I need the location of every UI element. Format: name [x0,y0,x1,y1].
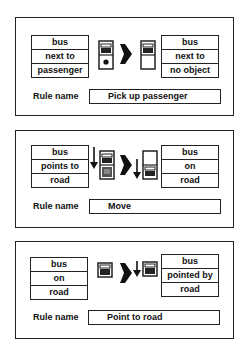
condition-relation[interactable]: points to [32,160,88,174]
rule-panel-point-to-road: bus on road bus pointed by road Rule nam… [15,241,234,339]
before-condition-table: bus points to road [31,145,89,188]
condition-relation[interactable]: on [31,272,87,286]
result-relation[interactable]: on [162,160,218,174]
after-result-table: bus pointed by road [161,254,219,297]
rule-name-field[interactable]: Pick up passenger [89,89,221,104]
after-result-table: bus on road [161,145,219,188]
rule-name-field[interactable]: Point to road [88,310,220,325]
rule-name-label: Rule name [33,312,79,322]
down-pointer-vehicle-on-road-icon [90,147,116,181]
rule-name-label: Rule name [33,201,79,211]
right-arrow-icon [120,151,132,179]
result-object[interactable]: road [162,283,218,296]
rule-name-label: Rule name [33,91,79,101]
before-condition-table: bus next to passenger [31,35,89,78]
after-result-table: bus next to no object [161,35,219,78]
condition-object[interactable]: passenger [32,64,88,77]
before-condition-table: bus on road [30,257,88,300]
condition-object[interactable]: road [32,174,88,187]
result-subject[interactable]: bus [162,146,218,160]
result-relation[interactable]: pointed by [162,269,218,283]
condition-subject[interactable]: bus [31,258,87,272]
rule-name-field[interactable]: Move [89,199,221,214]
down-pointer-vehicle-moved-icon [133,147,159,181]
rule-panel-move: bus points to road bus on road Rule name… [15,130,234,228]
right-arrow-icon [120,40,132,68]
right-arrow-icon [120,259,132,287]
road-tile-icon [97,262,113,278]
condition-subject[interactable]: bus [32,146,88,160]
result-subject[interactable]: bus [162,36,218,50]
vehicle-empty-icon [140,40,156,70]
condition-relation[interactable]: next to [32,50,88,64]
rule-panel-pick-up-passenger: bus next to passenger bus next to no obj… [15,17,234,116]
condition-object[interactable]: road [31,286,87,299]
result-relation[interactable]: next to [162,50,218,64]
result-subject[interactable]: bus [162,255,218,269]
vehicle-with-passenger-icon [98,40,114,70]
result-object[interactable]: road [162,174,218,187]
condition-subject[interactable]: bus [32,36,88,50]
result-object[interactable]: no object [162,64,218,77]
down-pointer-road-tile-icon [133,259,159,279]
